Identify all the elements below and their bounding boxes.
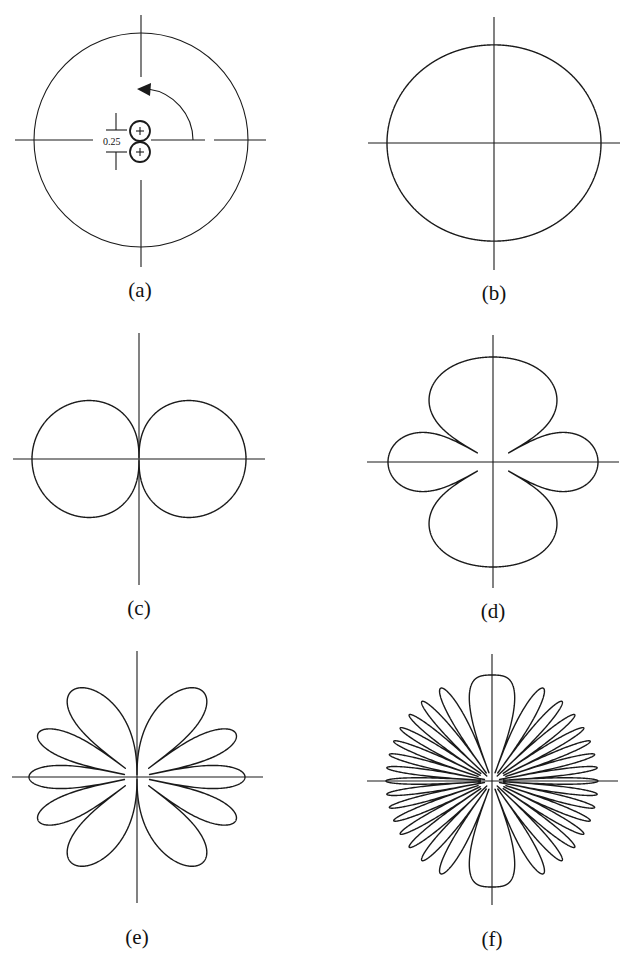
panel-label-e: (e) — [125, 925, 148, 949]
panel-label-c: (c) — [127, 596, 150, 620]
angle-arrowhead-icon — [137, 83, 151, 96]
spacing-label: 0.25 — [103, 136, 121, 147]
panel-c: (c) — [13, 333, 265, 620]
panel-label-f: (f) — [482, 927, 503, 951]
panel-b: (b) — [368, 17, 620, 305]
panel-label-d: (d) — [481, 599, 506, 623]
panel-e: (e) — [12, 651, 263, 949]
panel-f: (f) — [367, 654, 618, 951]
angle-arc — [148, 89, 193, 140]
panel-a: 0.25 (a) — [15, 15, 266, 302]
source-upper — [130, 121, 150, 141]
spacing-dimension: 0.25 — [103, 113, 127, 170]
panel-label-b: (b) — [482, 281, 507, 305]
panel-label-a: (a) — [128, 278, 151, 302]
panel-d: (d) — [367, 335, 619, 623]
antenna-pattern-figure: 0.25 (a) (b) (c) (d) (e) (f) — [0, 0, 630, 959]
source-lower — [130, 142, 150, 162]
